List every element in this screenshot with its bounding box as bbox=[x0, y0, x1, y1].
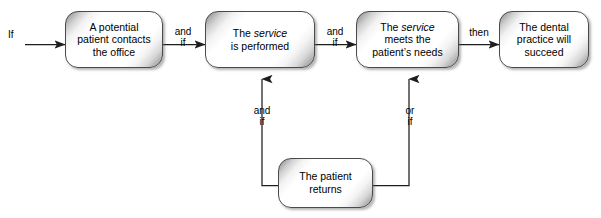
node-service-meets-needs[interactable]: The servicemeets thepatient’s needs bbox=[356, 11, 459, 68]
node-service-performed[interactable]: The serviceis performed bbox=[205, 11, 315, 68]
flowchart-canvas: A potential patient contacts the office … bbox=[0, 0, 601, 218]
node-practice-succeed[interactable]: The dental practice will succeed bbox=[499, 11, 589, 68]
node-service-performed-label: The serviceis performed bbox=[226, 27, 294, 52]
edge-label-and-if-2: and if bbox=[317, 27, 353, 48]
edge-label-and-if-up-left: and if bbox=[242, 106, 282, 127]
edge-label-then: then bbox=[461, 28, 497, 39]
edge-label-start-if: If bbox=[8, 30, 26, 41]
connector-patient-returns-to-box2 bbox=[262, 79, 278, 186]
edge-label-and-if-1: and if bbox=[165, 27, 201, 48]
node-service-meets-needs-label: The servicemeets thepatient’s needs bbox=[367, 21, 447, 59]
node-practice-succeed-label: The dental practice will succeed bbox=[512, 21, 576, 59]
connector-patient-returns-to-box3 bbox=[373, 79, 409, 186]
edge-label-or-if-up-right: or if bbox=[390, 106, 430, 127]
node-patient-returns-label: The patient returns bbox=[294, 170, 357, 195]
node-potential-patient-label: A potential patient contacts the office bbox=[72, 21, 156, 59]
node-potential-patient[interactable]: A potential patient contacts the office bbox=[65, 11, 163, 68]
node-patient-returns[interactable]: The patient returns bbox=[278, 158, 373, 208]
